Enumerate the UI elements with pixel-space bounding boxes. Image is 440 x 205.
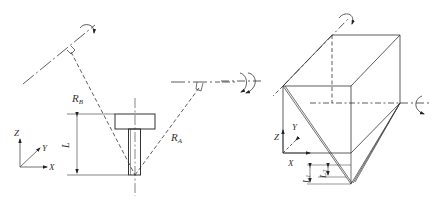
a-rotation-arrow-icon: [240, 73, 247, 92]
right-figure: [221, 14, 432, 184]
rb-label: RB: [71, 92, 84, 106]
l-label: L: [60, 142, 71, 149]
right-a-rotation-arrow-icon-2: [416, 96, 424, 114]
right-axis-y: [296, 137, 299, 140]
left-y-label: Y: [42, 143, 48, 153]
right-a-rotation-arrow-icon: [246, 73, 255, 93]
left-x-label: X: [48, 162, 55, 172]
right-z-label: Z: [274, 132, 280, 142]
l1-label: L1: [301, 174, 312, 184]
left-axis-y: [20, 148, 40, 167]
a-right-angle-mark: [196, 82, 203, 91]
left-z-label: Z: [14, 128, 20, 138]
right-x-label: X: [287, 158, 294, 168]
machining-geometry-diagram: RB RA L Z Y X: [0, 0, 440, 205]
right-b-rotation-arrow-icon: [339, 14, 353, 24]
b-rotation-axis: [23, 25, 95, 84]
l2-label: L2: [318, 169, 329, 179]
right-y-label: Y: [292, 122, 298, 132]
ra-line: [135, 88, 199, 175]
b-rotation-arrow-icon: [80, 25, 94, 33]
box-front-face: [283, 86, 351, 153]
ra-label: RA: [170, 131, 183, 145]
